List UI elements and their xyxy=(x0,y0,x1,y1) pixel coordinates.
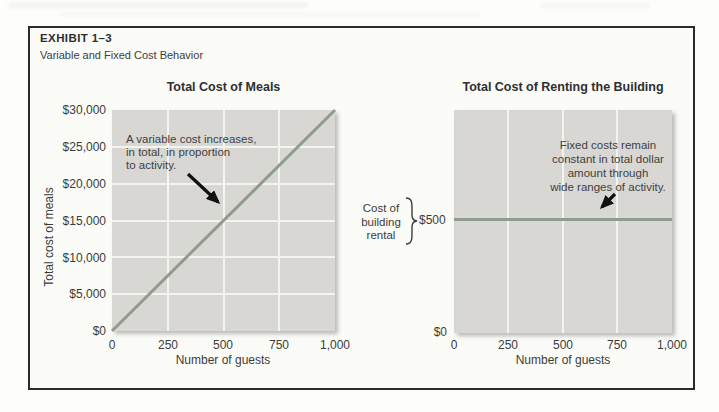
x-axis-title-meals: Number of guests xyxy=(148,353,298,367)
y-tick-label: $0 xyxy=(44,324,106,338)
x-tick-label: 250 xyxy=(483,338,533,352)
y-tick-label: $10,000 xyxy=(44,251,106,265)
chart-title-meals: Total Cost of Meals xyxy=(112,80,335,94)
fixed-cost-line xyxy=(454,218,672,221)
exhibit-subtitle: Variable and Fixed Cost Behavior xyxy=(40,49,203,61)
arrow-icon xyxy=(182,168,234,216)
y-axis-title-line: Cost of xyxy=(358,202,404,216)
x-axis-title-rent: Number of guests xyxy=(488,353,638,367)
arrow-icon xyxy=(588,190,620,220)
y-axis-title-rent: Cost of building rental xyxy=(358,202,404,243)
page-bleed-artifact xyxy=(8,2,308,8)
y-origin-label: $0 xyxy=(415,325,447,339)
gridline xyxy=(507,110,509,333)
x-tick-label: 0 xyxy=(87,338,137,352)
annotation-variable-cost: A variable cost increases, in total, in … xyxy=(126,133,276,172)
brace-icon xyxy=(405,197,418,245)
x-tick-label: 500 xyxy=(198,338,248,352)
page-bleed-artifact xyxy=(60,12,480,17)
fixed-cost-value-label: $500 xyxy=(419,213,446,227)
x-tick-label: 250 xyxy=(143,338,193,352)
annotation-line: in total, in proportion xyxy=(126,146,276,159)
y-tick-label: $30,000 xyxy=(44,103,106,117)
chart-title-rent: Total Cost of Renting the Building xyxy=(454,80,672,94)
x-tick-label: 750 xyxy=(592,338,642,352)
y-axis-title-line: rental xyxy=(358,229,404,243)
exhibit-figure: EXHIBIT 1–3 Variable and Fixed Cost Beha… xyxy=(0,0,719,412)
y-tick-label: $15,000 xyxy=(44,214,106,228)
y-axis-title-line: building xyxy=(358,216,404,230)
x-tick-label: 1,000 xyxy=(647,338,697,352)
x-tick-label: 1,000 xyxy=(310,338,360,352)
x-tick-label: 750 xyxy=(254,338,304,352)
annotation-fixed-cost: Fixed costs remain constant in total dol… xyxy=(528,138,688,194)
y-tick-label: $20,000 xyxy=(44,177,106,191)
page-bleed-artifact xyxy=(540,3,650,8)
y-tick-label: $25,000 xyxy=(44,140,106,154)
annotation-line: constant in total dollar xyxy=(528,152,688,166)
annotation-line: amount through xyxy=(528,166,688,180)
annotation-line: Fixed costs remain xyxy=(528,138,688,152)
x-tick-label: 500 xyxy=(538,338,588,352)
exhibit-label: EXHIBIT 1–3 xyxy=(40,32,112,44)
x-tick-label: 0 xyxy=(429,338,479,352)
y-tick-label: $5,000 xyxy=(44,287,106,301)
annotation-line: A variable cost increases, xyxy=(126,133,276,146)
